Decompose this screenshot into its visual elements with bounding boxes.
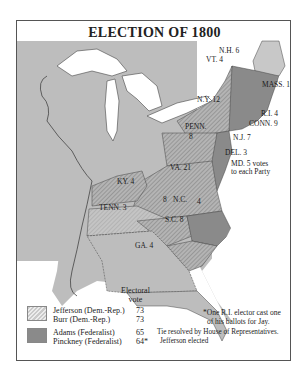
label-mass: MASS. 16 bbox=[262, 81, 291, 89]
label-ky: KY. 4 bbox=[117, 178, 134, 186]
legend-name: Adams (Federalist) bbox=[53, 328, 115, 337]
tie-note-line2: Jefferson elected bbox=[160, 337, 208, 346]
tie-note-line1: Tie resolved by House of Representatives… bbox=[157, 328, 279, 337]
legend-row-pinckney: Pinckney (Federalist) bbox=[53, 337, 122, 346]
label-penn: PENN. bbox=[185, 123, 206, 131]
legend-vote-jefferson: 73 bbox=[136, 306, 144, 315]
label-ny: N.Y. 12 bbox=[197, 96, 220, 104]
label-ri: R.I. 4 bbox=[261, 110, 278, 118]
label-penn-votes: 8 bbox=[189, 133, 193, 141]
legend-vote-burr: 73 bbox=[136, 315, 144, 324]
legend-swatch-federalist bbox=[27, 328, 47, 343]
legend-name: Jefferson (Dem.-Rep.) bbox=[53, 306, 125, 315]
label-md-2: to each Party bbox=[231, 168, 270, 176]
legend-header-line1: Electoral bbox=[121, 286, 150, 295]
legend-vote-adams: 65 bbox=[136, 328, 144, 337]
label-nj: N.J. 7 bbox=[233, 134, 251, 142]
legend-row-burr: Burr (Dem.-Rep.) bbox=[53, 315, 110, 324]
label-vt: VT. 4 bbox=[206, 56, 223, 64]
map-frame: ELECTION OF 1800 N.H. 6 VT. 4 MASS. 16 N… bbox=[16, 20, 291, 361]
footnote-line1: *One R.I. elector cast one bbox=[203, 308, 281, 317]
label-nc: N.C. bbox=[173, 196, 187, 204]
footnote-line2: of his ballots for Jay. bbox=[207, 317, 270, 326]
legend-row-jefferson: Jefferson (Dem.-Rep.) bbox=[53, 306, 125, 315]
label-ga: GA. 4 bbox=[135, 242, 153, 250]
legend-header-line2: vote bbox=[121, 295, 150, 304]
legend-name: Burr (Dem.-Rep.) bbox=[53, 315, 110, 324]
label-nc-dr-votes: 8 bbox=[163, 196, 167, 204]
legend-vote-pinckney: 64* bbox=[136, 337, 148, 346]
label-tenn: TENN. 3 bbox=[99, 204, 127, 212]
label-nc-fed-votes: 4 bbox=[197, 198, 201, 206]
label-del: DEL. 3 bbox=[225, 149, 247, 157]
legend-header: Electoral vote bbox=[121, 286, 150, 304]
legend-swatch-dem-rep bbox=[27, 306, 47, 321]
label-nh: N.H. 6 bbox=[219, 47, 239, 55]
legend-row-adams: Adams (Federalist) bbox=[53, 328, 115, 337]
label-va: VA. 21 bbox=[170, 164, 191, 172]
label-sc: S.C. 8 bbox=[165, 216, 184, 224]
legend-name: Pinckney (Federalist) bbox=[53, 337, 122, 346]
lake-michigan bbox=[105, 79, 119, 141]
map-title: ELECTION OF 1800 bbox=[17, 25, 291, 41]
label-conn: CONN. 9 bbox=[249, 120, 278, 128]
